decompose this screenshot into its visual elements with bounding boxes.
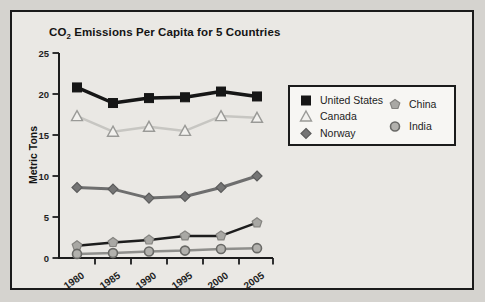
x-tick-label: 1985 xyxy=(98,269,123,291)
legend-item-united-states: United States xyxy=(299,92,388,108)
chart-title-prefix: CO xyxy=(49,26,66,38)
united-states-line xyxy=(77,87,257,103)
canada-legend-marker-icon xyxy=(299,109,313,123)
china-marker xyxy=(180,231,190,240)
united-states-marker xyxy=(253,92,262,101)
legend-column-1: United StatesCanadaNorway xyxy=(299,92,388,141)
united-states-marker xyxy=(145,94,154,103)
y-tick-label: 15 xyxy=(38,130,49,141)
canada-line xyxy=(77,116,257,132)
china-marker xyxy=(108,237,118,246)
y-tick-label: 10 xyxy=(38,171,49,182)
norway-marker xyxy=(108,184,118,194)
norway-marker xyxy=(72,183,82,193)
india-marker xyxy=(253,244,262,253)
india-legend-marker-icon xyxy=(388,119,402,133)
india-marker xyxy=(73,249,82,258)
x-tick-label: 1995 xyxy=(170,269,195,291)
axis-lines xyxy=(59,53,273,258)
india-marker xyxy=(217,244,226,253)
x-tick-label: 2005 xyxy=(242,269,267,291)
india-marker xyxy=(109,249,118,258)
legend-label-united-states: United States xyxy=(320,94,383,106)
legend: United StatesCanadaNorway ChinaIndia xyxy=(288,85,456,146)
chart-title-rest: Emissions Per Capita for 5 Countries xyxy=(71,26,280,38)
y-tick-label: 0 xyxy=(44,253,49,264)
norway-marker xyxy=(216,183,226,193)
china-line xyxy=(77,223,257,246)
norway-marker xyxy=(180,192,190,202)
china-legend-marker-icon xyxy=(388,97,402,111)
india-marker xyxy=(181,246,190,255)
india-marker xyxy=(145,247,154,256)
y-tick-label: 20 xyxy=(38,89,49,100)
x-tick-label: 1980 xyxy=(62,269,87,291)
norway-marker xyxy=(144,193,154,203)
y-tick-label: 25 xyxy=(38,48,49,59)
china-marker xyxy=(72,241,82,250)
united-states-legend-marker-icon xyxy=(299,93,313,107)
x-tick-label: 1990 xyxy=(134,269,159,291)
x-tick-label: 2000 xyxy=(206,269,231,291)
united-states-marker xyxy=(181,93,190,102)
legend-label-china: China xyxy=(409,98,436,110)
legend-label-norway: Norway xyxy=(320,127,356,139)
united-states-marker xyxy=(73,83,82,92)
india-line xyxy=(77,248,257,254)
norway-legend-marker-icon xyxy=(299,126,313,140)
united-states-marker xyxy=(217,87,226,96)
china-marker xyxy=(216,231,226,240)
canada-marker xyxy=(72,111,83,121)
china-marker xyxy=(252,218,262,227)
united-states-marker xyxy=(109,99,118,108)
norway-marker xyxy=(252,171,262,181)
legend-item-india: India xyxy=(388,115,450,136)
legend-item-china: China xyxy=(388,93,450,114)
chart-title: CO2 Emissions Per Capita for 5 Countries xyxy=(49,26,280,41)
chart-svg: 0510152025198019851990199520002005 xyxy=(0,0,485,302)
y-tick-label: 5 xyxy=(44,212,50,223)
norway-line xyxy=(77,176,257,198)
legend-label-india: India xyxy=(409,120,432,132)
legend-item-norway: Norway xyxy=(299,125,388,141)
legend-label-canada: Canada xyxy=(320,110,357,122)
china-marker xyxy=(144,235,154,244)
legend-column-2: ChinaIndia xyxy=(388,92,450,141)
y-axis-label: Metric Tons xyxy=(27,105,39,205)
legend-item-canada: Canada xyxy=(299,108,388,124)
